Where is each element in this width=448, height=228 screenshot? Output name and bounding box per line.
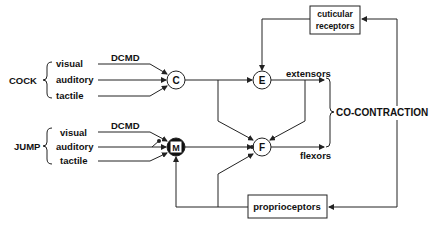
node-c-label: C xyxy=(172,75,179,86)
jump-input-auditory: auditory xyxy=(56,141,94,152)
jump-brace xyxy=(43,128,52,164)
cock-dcmd-label: DCMD xyxy=(111,52,140,63)
cuticular-label-line1: cuticular xyxy=(317,9,353,19)
cock-input-tactile: tactile xyxy=(56,90,83,101)
cock-brace xyxy=(43,62,52,98)
jump-dcmd-label: DCMD xyxy=(111,120,140,131)
cock-input-visual: visual xyxy=(56,58,83,69)
node-f-label: F xyxy=(259,142,265,153)
jump-input-visual: visual xyxy=(60,127,87,138)
node-m-label: M xyxy=(172,143,180,153)
jump-input-tactile: tactile xyxy=(60,155,87,166)
cuticular-label-line2: receptors xyxy=(316,21,355,31)
extensors-label: extensors xyxy=(286,68,331,79)
neural-circuit-diagram: C E F M COCK visual auditory tactile DCM… xyxy=(0,0,448,228)
flexors-label: flexors xyxy=(300,150,331,161)
cock-label: COCK xyxy=(9,75,37,86)
jump-label: JUMP xyxy=(14,141,41,152)
cock-input-auditory: auditory xyxy=(56,74,94,85)
proprioceptors-label: proprioceptors xyxy=(253,201,321,212)
node-e-label: E xyxy=(259,75,266,86)
co-contraction-label: CO-CONTRACTION xyxy=(336,107,428,118)
